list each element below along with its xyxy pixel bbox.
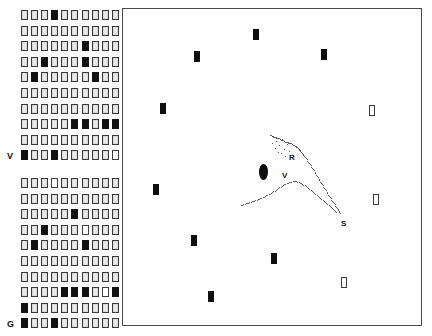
matrix-cell xyxy=(41,225,48,235)
matrix-cell xyxy=(92,57,99,67)
matrix-cell xyxy=(92,256,99,266)
matrix-cell xyxy=(102,272,109,282)
matrix-cell xyxy=(21,256,28,266)
matrix-cell-group xyxy=(21,209,122,219)
curve-dot xyxy=(336,207,337,208)
matrix-cell xyxy=(71,104,78,114)
curve-dot xyxy=(276,138,277,139)
curve-dot xyxy=(311,165,312,166)
matrix-cell xyxy=(112,26,119,36)
curve-dot xyxy=(252,201,253,202)
matrix-cell xyxy=(71,119,78,129)
dense-blob-marker xyxy=(259,164,268,180)
matrix-cell xyxy=(51,119,58,129)
curve-dot xyxy=(281,153,282,154)
matrix-cell xyxy=(102,225,109,235)
matrix-cell xyxy=(82,119,89,129)
curve-dot xyxy=(274,137,275,138)
curve-dot xyxy=(292,144,293,145)
matrix-cell xyxy=(102,10,109,20)
curve-dot xyxy=(296,147,297,148)
curve-dot xyxy=(319,179,320,180)
curve-dot xyxy=(292,144,293,145)
curve-dot xyxy=(279,145,280,146)
matrix-cell xyxy=(112,225,119,235)
matrix-cell xyxy=(71,256,78,266)
matrix-row xyxy=(0,225,122,241)
curve-dot xyxy=(325,189,326,190)
curve-dot xyxy=(265,196,266,197)
curve-dot xyxy=(312,191,313,192)
matrix-cell-group xyxy=(21,104,122,114)
matrix-cell-group xyxy=(21,72,122,82)
matrix-cell xyxy=(102,240,109,250)
matrix-cell xyxy=(51,72,58,82)
matrix-cell xyxy=(82,209,89,219)
matrix-cell xyxy=(61,41,68,51)
matrix-cell xyxy=(51,318,58,328)
curve-dot xyxy=(270,135,271,136)
matrix-cell xyxy=(21,72,28,82)
matrix-cell xyxy=(71,225,78,235)
curve-dot xyxy=(323,185,324,186)
curve-dot xyxy=(318,177,319,178)
curve-dot xyxy=(294,181,295,182)
curve-dot xyxy=(305,157,306,158)
matrix-cell xyxy=(82,225,89,235)
curve-dot xyxy=(321,199,322,200)
curve-dot xyxy=(314,193,315,194)
curve-dot xyxy=(333,202,334,203)
matrix-cell xyxy=(71,150,78,160)
curve-dot xyxy=(295,146,296,147)
matrix-cell xyxy=(71,72,78,82)
curve-dot xyxy=(259,199,260,200)
matrix-row xyxy=(0,178,122,194)
matrix-cell xyxy=(71,272,78,282)
matrix-row xyxy=(0,135,122,151)
matrix-cell-group xyxy=(21,41,122,51)
data-point-marker xyxy=(153,184,159,195)
matrix-cell-group xyxy=(21,178,122,188)
matrix-cell-group xyxy=(21,240,122,250)
curve-dot xyxy=(258,199,259,200)
matrix-cell xyxy=(71,209,78,219)
curve-dot xyxy=(272,143,273,144)
curve-dot xyxy=(323,187,324,188)
matrix-cell xyxy=(51,57,58,67)
curve-dot xyxy=(300,183,301,184)
curve-dot xyxy=(312,168,313,169)
matrix-cell xyxy=(102,178,109,188)
curve-dot xyxy=(320,198,321,199)
matrix-cell xyxy=(102,256,109,266)
matrix-cell xyxy=(112,194,119,204)
matrix-cell xyxy=(102,150,109,160)
data-point-marker xyxy=(253,29,259,40)
curve-dot xyxy=(299,182,300,183)
curve-dot xyxy=(284,141,285,142)
matrix-cell xyxy=(112,272,119,282)
curve-dot xyxy=(301,183,302,184)
dotted-curve-layer xyxy=(123,9,421,325)
matrix-cell xyxy=(112,256,119,266)
curve-dot xyxy=(307,159,308,160)
curve-dot xyxy=(257,200,258,201)
matrix-row xyxy=(0,104,122,120)
curve-dot xyxy=(335,204,336,205)
curve-dot xyxy=(295,181,296,182)
curve-dot xyxy=(339,211,340,212)
curve-dot xyxy=(261,198,262,199)
curve-dot xyxy=(306,158,307,159)
curve-dot xyxy=(288,143,289,144)
curve-dot xyxy=(267,195,268,196)
matrix-cell xyxy=(82,88,89,98)
matrix-cell xyxy=(61,88,68,98)
matrix-row xyxy=(0,57,122,73)
curve-dot xyxy=(334,210,335,211)
curve-dot xyxy=(293,145,294,146)
curve-dot xyxy=(327,204,328,205)
matrix-cell xyxy=(71,240,78,250)
matrix-cell xyxy=(21,57,28,67)
matrix-cell xyxy=(41,272,48,282)
matrix-cell xyxy=(21,26,28,36)
matrix-cell xyxy=(92,26,99,36)
